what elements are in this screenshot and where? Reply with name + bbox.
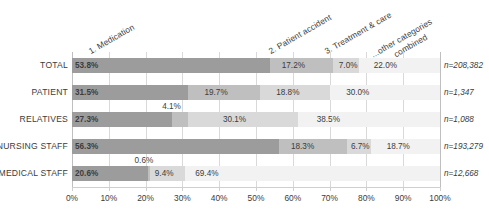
bar-label-other: 30.0% — [346, 85, 369, 100]
bar-segment-patient-accident — [172, 112, 187, 127]
stacked-bar: 31.5% 19.7% 18.8% 30.0% — [72, 85, 440, 100]
sample-size-nursing-staff: n=193,279 — [444, 139, 483, 154]
x-tick-label-100: 100% — [429, 193, 450, 203]
bar-segment-other — [185, 166, 440, 181]
bar-label-patient-accident: 19.7% — [204, 85, 227, 100]
bar-label-other: 22.0% — [374, 58, 397, 73]
bar-label-patient-accident: 17.2% — [282, 58, 305, 73]
stacked-bar: 27.3% 4.1% 30.1% 38.5% — [72, 112, 440, 127]
bar-row-nursing-staff: 56.3% 18.3% 6.7% 18.7% — [72, 133, 440, 160]
x-tick-label-0: 0% — [66, 193, 78, 203]
x-tick-mark — [146, 187, 147, 191]
bar-label-patient-accident: 18.3% — [291, 139, 314, 154]
x-tick-label-20: 20% — [137, 193, 154, 203]
bar-label-patient-accident: 4.1% — [162, 101, 181, 112]
x-tick-label-80: 80% — [358, 193, 375, 203]
bar-label-other: 18.7% — [387, 139, 410, 154]
bar-label-other: 38.5% — [317, 112, 340, 127]
category-label-nursing-staff: NURSING STAFF — [0, 139, 68, 154]
x-tick-mark — [366, 187, 367, 191]
x-tick-mark — [330, 187, 331, 191]
sample-size-medical-staff: n=12,668 — [444, 166, 478, 181]
category-label-total: TOTAL — [40, 58, 68, 73]
x-tick-mark — [293, 187, 294, 191]
gridline-100 — [440, 52, 441, 187]
x-tick-label-90: 90% — [395, 193, 412, 203]
x-tick-mark — [256, 187, 257, 191]
sample-size-relatives: n=1,088 — [444, 112, 474, 127]
bar-row-relatives: 27.3% 4.1% 30.1% 38.5% — [72, 106, 440, 133]
x-tick-mark — [440, 187, 441, 191]
bar-segment-medication — [72, 58, 270, 73]
bar-label-medication: 20.6% — [75, 166, 98, 181]
bar-label-medication: 31.5% — [75, 85, 98, 100]
x-tick-label-40: 40% — [211, 193, 228, 203]
stacked-bar: 20.6% 0.6% 9.4% 69.4% — [72, 166, 440, 181]
stacked-bar: 56.3% 18.3% 6.7% 18.7% — [72, 139, 440, 154]
bar-label-treatment-care: 9.4% — [155, 166, 174, 181]
x-tick-mark — [219, 187, 220, 191]
column-headers: 1. Medication 2. Patient accident 3. Tre… — [0, 0, 489, 56]
bar-row-total: 53.8% 17.2% 7.0% 22.0% — [72, 52, 440, 79]
sample-size-labels: n=208,382 n=1,347 n=1,088 n=193,279 n=12… — [444, 52, 489, 187]
bar-label-other: 69.4% — [195, 166, 218, 181]
bar-row-medical-staff: 20.6% 0.6% 9.4% 69.4% — [72, 160, 440, 187]
x-tick-label-10: 10% — [100, 193, 117, 203]
bar-label-treatment-care: 7.0% — [339, 58, 358, 73]
bar-segment-other — [359, 58, 440, 73]
plot-area: 53.8% 17.2% 7.0% 22.0% 31.5% 19.7% 18.8%… — [72, 52, 440, 187]
category-label-patient: PATIENT — [32, 85, 68, 100]
bar-label-medication: 53.8% — [75, 58, 98, 73]
x-tick-label-50: 50% — [248, 193, 265, 203]
bar-label-treatment-care: 6.7% — [351, 139, 370, 154]
x-tick-label-30: 30% — [174, 193, 191, 203]
bar-label-medication: 56.3% — [75, 139, 98, 154]
bar-label-treatment-care: 18.8% — [276, 85, 299, 100]
sample-size-total: n=208,382 — [444, 58, 483, 73]
x-tick-mark — [72, 187, 73, 191]
category-label-relatives: RELATIVES — [20, 112, 68, 127]
stacked-bar-chart: 1. Medication 2. Patient accident 3. Tre… — [0, 0, 489, 211]
bar-label-medication: 27.3% — [75, 112, 98, 127]
category-label-medical-staff: MEDICAL STAFF — [0, 166, 68, 181]
x-tick-label-60: 60% — [284, 193, 301, 203]
x-tick-mark — [403, 187, 404, 191]
bar-label-patient-accident: 0.6% — [135, 155, 154, 166]
x-tick-label-70: 70% — [321, 193, 338, 203]
x-tick-mark — [109, 187, 110, 191]
sample-size-patient: n=1,347 — [444, 85, 474, 100]
bar-row-patient: 31.5% 19.7% 18.8% 30.0% — [72, 79, 440, 106]
bar-label-treatment-care: 30.1% — [223, 112, 246, 127]
category-axis-labels: TOTAL PATIENT RELATIVES NURSING STAFF ME… — [0, 52, 68, 187]
bar-segment-medication — [72, 139, 279, 154]
stacked-bar: 53.8% 17.2% 7.0% 22.0% — [72, 58, 440, 73]
x-tick-mark — [182, 187, 183, 191]
